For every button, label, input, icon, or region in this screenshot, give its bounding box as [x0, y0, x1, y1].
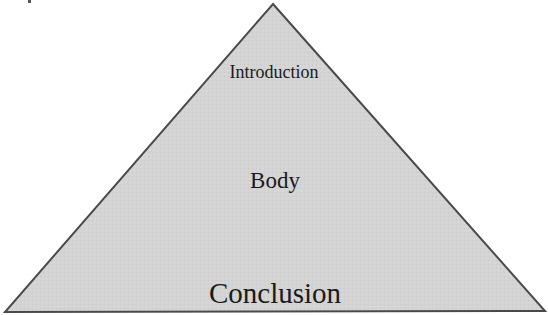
pyramid-shape: [5, 4, 545, 312]
pyramid-diagram: [0, 0, 548, 315]
conclusion-label: Conclusion: [209, 277, 341, 310]
introduction-label: Introduction: [230, 62, 319, 83]
body-label: Body: [250, 168, 300, 194]
